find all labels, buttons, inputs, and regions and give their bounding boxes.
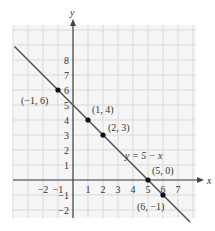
x-tick-label: −2	[38, 184, 49, 195]
y-tick-label: −2	[58, 205, 69, 216]
x-tick-label: 7	[176, 184, 181, 195]
x-tick-label: 1	[86, 184, 91, 195]
y-axis-label: y	[69, 7, 75, 18]
y-tick-label: 2	[64, 145, 69, 156]
x-axis-arrow-icon	[197, 177, 204, 183]
data-point-label: (1, 4)	[92, 104, 114, 116]
y-tick-label: 7	[64, 70, 69, 81]
annotations: y = 5 − x	[124, 150, 163, 161]
y-tick-label: 4	[64, 115, 69, 126]
equation-label: y = 5 − x	[124, 150, 163, 161]
y-tick-label: −1	[58, 190, 69, 201]
y-axis-arrow-icon	[70, 19, 76, 26]
data-point-dot	[100, 132, 105, 137]
x-tick-label: 5	[146, 184, 151, 195]
data-point-dot	[55, 87, 60, 92]
data-point-label: (5, 0)	[152, 165, 174, 177]
data-point-dot	[160, 192, 165, 197]
y-tick-label: 5	[64, 100, 69, 111]
x-tick-label: 4	[131, 184, 136, 195]
data-point-dot	[145, 177, 150, 182]
x-axis-label: x	[206, 175, 212, 186]
data-point-label: (2, 3)	[108, 122, 130, 134]
coordinate-plane: xy −2−11234567−2−112345678 (−1, 6)(1, 4)…	[0, 0, 215, 231]
data-point-label: (−1, 6)	[21, 95, 48, 107]
x-tick-label: 3	[116, 184, 121, 195]
y-tick-label: 8	[64, 55, 69, 66]
y-tick-label: 3	[64, 130, 69, 141]
data-point-dot	[85, 117, 90, 122]
y-tick-label: 6	[64, 85, 69, 96]
data-point-label: (6, −1)	[137, 201, 164, 213]
y-tick-label: 1	[64, 160, 69, 171]
x-tick-label: 2	[101, 184, 106, 195]
